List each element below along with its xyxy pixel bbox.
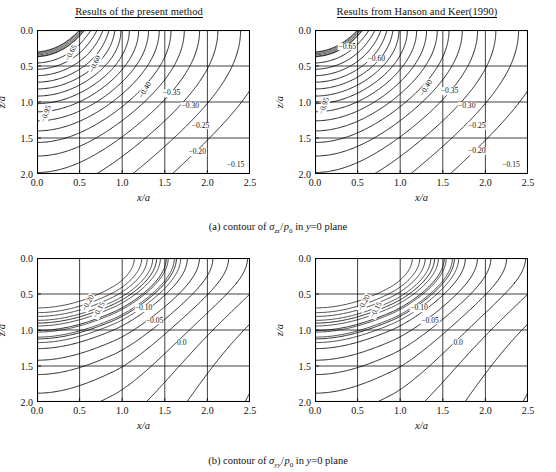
y-tick-label: 0.5: [289, 289, 311, 300]
contour-label: −0.05: [421, 317, 440, 325]
contour-svg: [315, 258, 528, 402]
contour-line: [37, 258, 229, 393]
x-axis-label: x/a: [415, 420, 428, 431]
figure-row-a: Results of the present method 0.00.51.01…: [0, 4, 556, 216]
y-tick-label: 0.0: [11, 253, 33, 264]
contour-line: [37, 30, 84, 56]
x-tick-label: 1.5: [437, 405, 450, 416]
contour-line: [37, 258, 147, 316]
y-tick-label: 1.0: [289, 97, 311, 108]
contour-line: [37, 30, 159, 131]
contour-svg: [315, 30, 528, 174]
x-tick-label: 1.5: [159, 405, 172, 416]
caption-a-prefix: (a) contour of: [209, 221, 269, 232]
x-tick-label: 1.0: [116, 405, 129, 416]
caption-b-plane-eq: =0 plane: [311, 455, 348, 466]
y-axis-label: z/a: [0, 324, 7, 336]
plot-area-a-left: 0.00.51.01.52.02.50.00.51.01.52.0x/az/a−…: [37, 30, 250, 174]
contour-label: −0.30: [181, 102, 200, 110]
y-tick-label: 1.0: [11, 97, 33, 108]
y-axis-label: z/a: [274, 324, 285, 336]
x-axis-label: x/a: [415, 192, 428, 203]
y-tick-label: 1.5: [11, 133, 33, 144]
x-tick-label: 2.0: [479, 177, 492, 188]
contour-line: [187, 324, 250, 402]
x-axis-label: x/a: [137, 420, 150, 431]
caption-a: (a) contour of σzz/p0 in y=0 plane: [0, 221, 556, 235]
contour-label: 0.0: [453, 339, 464, 347]
panel-b-left: 0.00.51.01.52.02.50.00.51.01.52.0x/az/a−…: [0, 240, 278, 452]
contour-label: −0.15: [226, 162, 245, 170]
contour-label: −0.20: [188, 149, 207, 157]
x-tick-label: 2.5: [522, 177, 535, 188]
contour-label: −0.25: [468, 123, 487, 131]
x-tick-label: 0.5: [351, 177, 364, 188]
y-axis-label: z/a: [274, 96, 285, 108]
x-axis-label: x/a: [137, 192, 150, 203]
x-tick-label: 1.5: [159, 177, 172, 188]
y-tick-label: 2.0: [289, 397, 311, 408]
y-tick-label: 0.0: [11, 25, 33, 36]
y-tick-label: 0.5: [289, 61, 311, 72]
contour-line: [37, 258, 199, 360]
plot-area-a-right: 0.00.51.01.52.02.50.00.51.01.52.0x/az/a−…: [315, 30, 528, 174]
figure-contour-comparison: Results of the present method 0.00.51.01…: [0, 0, 556, 472]
contour-label: 0.0: [177, 339, 188, 347]
x-tick-label: 2.0: [479, 405, 492, 416]
x-tick-label: 2.0: [201, 405, 214, 416]
x-tick-label: 1.0: [394, 177, 407, 188]
x-tick-label: 1.5: [437, 177, 450, 188]
caption-b-prefix: (b) contour of: [208, 455, 269, 466]
y-axis-label: z/a: [0, 96, 7, 108]
contour-label: −0.30: [457, 102, 476, 110]
panel-a-right-title: Results from Hanson and Keer(1990): [278, 6, 556, 17]
y-tick-label: 0.5: [11, 289, 33, 300]
x-tick-label: 0.5: [73, 177, 86, 188]
y-tick-label: 0.0: [289, 25, 311, 36]
caption-b-suffix: in: [293, 455, 306, 466]
contour-label: −0.60: [367, 55, 386, 63]
contour-line: [315, 258, 491, 375]
y-tick-label: 0.0: [289, 253, 311, 264]
contour-label: −0.25: [191, 122, 210, 130]
caption-b-subscript: yy: [274, 461, 280, 469]
y-tick-label: 1.0: [11, 325, 33, 336]
contour-label: −0.15: [502, 162, 521, 170]
panel-b-right: 0.00.51.01.52.02.50.00.51.01.52.0x/az/a−…: [278, 240, 556, 452]
x-tick-label: 2.5: [522, 405, 535, 416]
contour-svg: [37, 258, 250, 402]
figure-row-b: 0.00.51.01.52.02.50.00.51.01.52.0x/az/a−…: [0, 240, 556, 452]
x-tick-label: 2.0: [201, 177, 214, 188]
y-tick-label: 2.0: [289, 169, 311, 180]
contour-line: [465, 324, 528, 402]
contour-line: [37, 30, 149, 121]
contour-label: −0.20: [468, 147, 487, 155]
y-tick-label: 0.5: [11, 61, 33, 72]
contour-line: [37, 258, 213, 375]
x-tick-label: 0.5: [351, 405, 364, 416]
x-tick-label: 2.5: [244, 405, 257, 416]
x-tick-label: 1.0: [394, 405, 407, 416]
contour-line: [315, 30, 437, 131]
contour-line: [37, 30, 121, 96]
panel-a-right: Results from Hanson and Keer(1990) 0.00.…: [278, 4, 556, 216]
x-tick-label: 2.5: [244, 177, 257, 188]
contour-label: −0.05: [145, 317, 164, 325]
contour-label: −0.35: [162, 90, 181, 98]
y-tick-label: 2.0: [11, 169, 33, 180]
caption-a-suffix: in: [293, 221, 306, 232]
x-tick-label: 1.0: [116, 177, 129, 188]
y-tick-label: 1.5: [289, 133, 311, 144]
caption-b: (b) contour of σyy/p0 in y=0 plane: [0, 455, 556, 469]
contour-line: [37, 30, 200, 173]
panel-a-left-title: Results of the present method: [0, 6, 278, 17]
caption-a-plane-eq: =0 plane: [311, 221, 348, 232]
y-tick-label: 1.5: [11, 361, 33, 372]
contour-label: −0.10: [134, 305, 153, 313]
contour-line: [315, 258, 507, 393]
contour-line: [315, 30, 478, 173]
contour-label: −0.65: [338, 43, 357, 51]
y-tick-label: 1.0: [289, 325, 311, 336]
plot-area-b-left: 0.00.51.01.52.02.50.00.51.01.52.0x/az/a−…: [37, 258, 250, 402]
plot-area-b-right: 0.00.51.01.52.02.50.00.51.01.52.0x/az/a−…: [315, 258, 528, 402]
